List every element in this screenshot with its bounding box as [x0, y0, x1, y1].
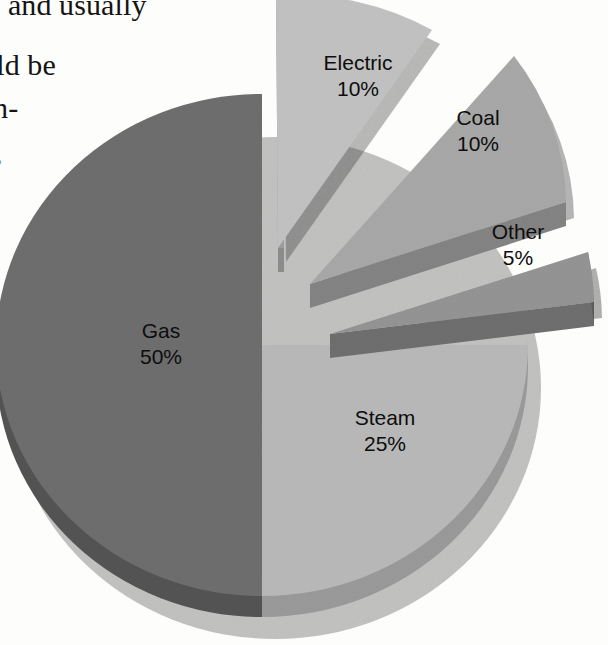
pie-chart — [0, 0, 608, 645]
pie-chart-canvas — [0, 0, 608, 645]
gas-slice-top — [0, 94, 262, 596]
electric-slice-side-lip — [278, 248, 284, 272]
steam-slice-top — [262, 345, 528, 596]
scanned-page: rts and usually ould be gh- g — [0, 0, 608, 645]
